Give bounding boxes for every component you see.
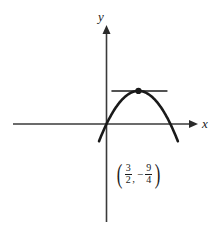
vertex-point: [135, 88, 141, 94]
x-coordinate-fraction: 3 2: [125, 163, 132, 185]
y-denominator: 4: [145, 174, 152, 186]
x-numerator: 3: [125, 163, 132, 174]
y-numerator: 9: [145, 163, 152, 174]
parabola-figure: y x ( 3 2 , − 9 4 ): [0, 0, 224, 226]
open-paren: (: [117, 163, 123, 185]
plot-canvas: [0, 0, 224, 226]
vertex-coordinate-label: ( 3 2 , − 9 4 ): [103, 163, 173, 185]
y-coordinate-fraction: 9 4: [145, 163, 152, 185]
negative-sign: −: [137, 169, 143, 180]
coordinate-comma: ,: [132, 173, 135, 185]
x-axis-label: x: [202, 117, 208, 130]
y-axis-label: y: [98, 10, 104, 23]
close-paren: ): [154, 163, 160, 185]
parabola-curve: [99, 91, 178, 141]
x-denominator: 2: [125, 174, 132, 186]
